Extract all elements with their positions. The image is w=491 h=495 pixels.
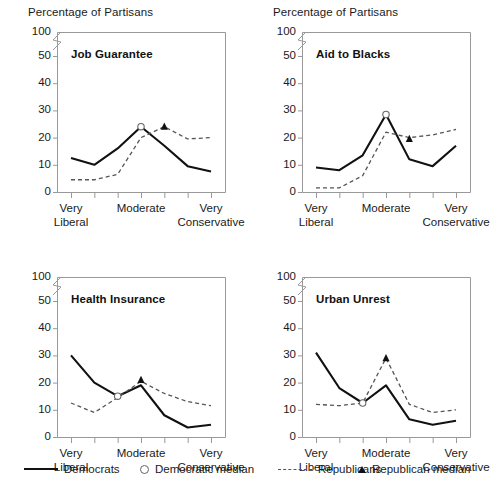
y-axis-tick-0: 0: [5, 430, 51, 442]
y-axis-tick-100: 100: [5, 25, 51, 37]
y-axis-tick-50: 50: [250, 49, 296, 61]
democratic-median-marker: [383, 111, 389, 117]
series-line-republicans: [316, 129, 456, 187]
dashed-line-icon: [278, 469, 312, 470]
y-axis-tick-20: 20: [250, 131, 296, 143]
republican-median-marker: [161, 123, 168, 130]
series-line-republicans: [71, 127, 211, 180]
y-axis-tick-40: 40: [5, 76, 51, 88]
y-axis-tick-10: 10: [250, 158, 296, 170]
y-axis-tick-100: 100: [250, 270, 296, 282]
y-axis-tick-0: 0: [250, 430, 296, 442]
y-axis-tick-50: 50: [250, 294, 296, 306]
y-axis-tick-10: 10: [5, 403, 51, 415]
democratic-median-marker: [114, 393, 120, 399]
legend-item-democratic-median: Democratic median: [140, 463, 254, 475]
republican-median-marker: [137, 376, 144, 383]
y-axis-tick-10: 10: [5, 158, 51, 170]
y-axis-tick-0: 0: [5, 185, 51, 197]
panel-title-bottom-right: Urban Unrest: [316, 293, 390, 305]
y-axis-tick-100: 100: [250, 25, 296, 37]
y-axis-tick-20: 20: [250, 376, 296, 388]
y-axis-tick-0: 0: [250, 185, 296, 197]
series-line-democrats: [71, 355, 211, 427]
chart-panel-bottom-left: 01020304050100VeryLiberalModerateVeryCon…: [0, 245, 246, 490]
legend-item-democrats: Democrats: [24, 463, 120, 475]
solid-line-icon: [24, 468, 58, 470]
y-axis-tick-100: 100: [5, 270, 51, 282]
axis-header-label: Percentage of Partisans: [28, 6, 153, 18]
legend-label-democratic-median: Democratic median: [155, 463, 254, 475]
y-axis-tick-10: 10: [250, 403, 296, 415]
y-axis-tick-50: 50: [5, 49, 51, 61]
axis-header-label: Percentage of Partisans: [273, 6, 398, 18]
panel-title-top-left: Job Guarantee: [71, 48, 153, 60]
chart-panel-top-left: Percentage of Partisans01020304050100Ver…: [0, 0, 246, 245]
open-circle-icon: [140, 465, 149, 474]
series-line-democrats: [71, 127, 211, 172]
chart-legend: DemocratsDemocratic medianRepublicansRep…: [0, 463, 491, 487]
democratic-median-marker: [359, 400, 365, 406]
y-axis-tick-20: 20: [5, 376, 51, 388]
y-axis-tick-40: 40: [250, 321, 296, 333]
republican-median-marker: [406, 135, 413, 142]
y-axis-tick-30: 30: [250, 348, 296, 360]
y-axis-tick-40: 40: [250, 76, 296, 88]
panel-title-bottom-left: Health Insurance: [71, 293, 165, 305]
legend-label-republican-median: Republican median: [372, 463, 470, 475]
series-line-democrats: [316, 114, 456, 170]
democratic-median-marker: [138, 124, 144, 130]
y-axis-tick-30: 30: [5, 103, 51, 115]
legend-item-republican-median: Republican median: [358, 463, 470, 475]
y-axis-tick-50: 50: [5, 294, 51, 306]
y-axis-tick-40: 40: [5, 321, 51, 333]
series-line-democrats: [316, 353, 456, 425]
x-axis-label-6: VeryConservative: [408, 201, 491, 229]
y-axis-tick-30: 30: [5, 348, 51, 360]
panel-title-top-right: Aid to Blacks: [316, 48, 390, 60]
chart-figure: Percentage of Partisans01020304050100Ver…: [0, 0, 491, 495]
filled-triangle-icon: [358, 466, 366, 473]
y-axis-tick-20: 20: [5, 131, 51, 143]
republican-median-marker: [382, 354, 389, 361]
legend-label-democrats: Democrats: [64, 463, 120, 475]
chart-panel-bottom-right: 01020304050100VeryLiberalModerateVeryCon…: [245, 245, 491, 490]
y-axis-tick-30: 30: [250, 103, 296, 115]
chart-panel-top-right: Percentage of Partisans01020304050100Ver…: [245, 0, 491, 245]
